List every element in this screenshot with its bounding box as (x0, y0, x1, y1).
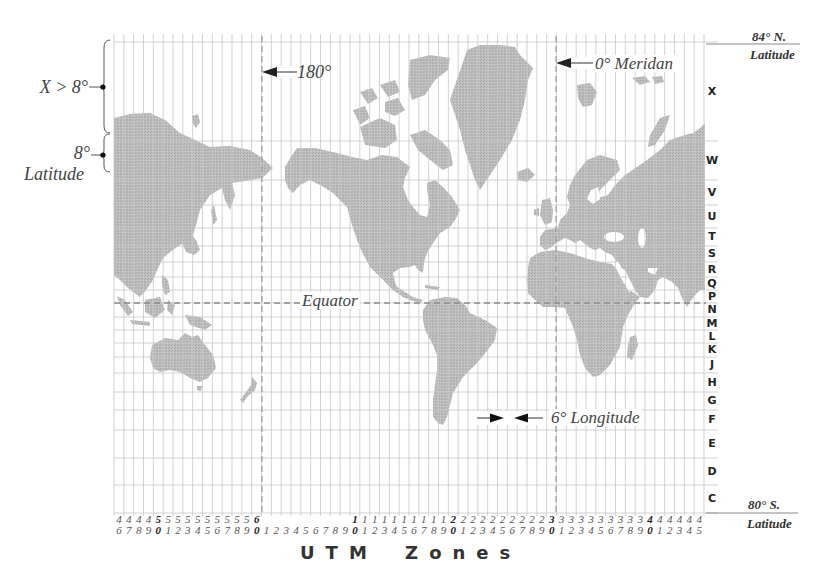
zone-label-units: 2 (271, 525, 281, 536)
zone-label-units: 5 (497, 525, 507, 536)
latitude-band-label: H (702, 377, 722, 388)
zone-label-units: 8 (232, 525, 242, 536)
latitude-band-label: L (702, 331, 722, 342)
landmass-victoria-island (360, 118, 397, 148)
zone-label-units: 4 (389, 525, 399, 536)
zone-label-units: 1 (556, 525, 566, 536)
landmass-franz-josef-land (652, 76, 664, 84)
latitude-band-label: V (702, 187, 722, 198)
zone-label-units: 3 (674, 525, 684, 536)
zone-label-units: 3 (576, 525, 586, 536)
north-limit-sublabel: Latitude (750, 48, 795, 61)
zone-label-units: 2 (566, 525, 576, 536)
landmass-novaya-zemlya (648, 115, 670, 147)
zone-label-units: 9 (143, 525, 153, 536)
landmass-baffin-island (410, 130, 453, 170)
landmass-caribbean (425, 285, 440, 290)
zone-label-units: 8 (625, 525, 635, 536)
antimeridian-arrow-icon (262, 66, 298, 78)
latitude-band-label: T (702, 231, 722, 242)
zone-label-units: 5 (399, 525, 409, 536)
zone-label-units: 2 (468, 525, 478, 536)
zone-label-units: 7 (320, 525, 330, 536)
zone-label-units: 1 (458, 525, 468, 536)
latitude-band-label: S (702, 248, 722, 259)
zone-label-units: 8 (429, 525, 439, 536)
zone-label-units: 8 (330, 525, 340, 536)
zone-label-units: 4 (586, 525, 596, 536)
latitude-band-label: Q (702, 278, 722, 289)
latitude-band-label: J (702, 359, 722, 370)
zone-label-units: 0 (547, 525, 557, 536)
landmass-new-zealand (240, 377, 257, 403)
band-8-dot (100, 152, 105, 157)
zone-label-units: 5 (596, 525, 606, 536)
landmass-sakhalin (211, 205, 217, 225)
latitude-band-label: M (702, 318, 722, 329)
zone-label-units: 8 (134, 525, 144, 536)
landmass-arctic-island (380, 80, 400, 97)
band-x-label: X > 8° (40, 78, 88, 96)
zone-label-units: 9 (537, 525, 547, 536)
zone-label-units: 4 (488, 525, 498, 536)
zone-label-units: 3 (379, 525, 389, 536)
zone-label-units: 5 (694, 525, 704, 536)
zone-label-units: 3 (183, 525, 193, 536)
zone-label-units: 6 (311, 525, 321, 536)
zone-label-units: 4 (193, 525, 203, 536)
latitude-band-label: P (702, 291, 722, 302)
zone-label-units: 1 (655, 525, 665, 536)
zone-label-units: 6 (409, 525, 419, 536)
zone-label-units: 7 (615, 525, 625, 536)
latitude-band-label: G (702, 395, 722, 406)
latitude-band-label: W (702, 155, 722, 166)
latitude-band-label: F (702, 414, 722, 425)
zone-label-units: 0 (350, 525, 360, 536)
prime-meridian-label: 0° Meridan (593, 55, 675, 72)
zone-label-units: 2 (665, 525, 675, 536)
band-x-dot (100, 84, 105, 89)
landmass-java (130, 320, 150, 326)
zone-label-units: 3 (478, 525, 488, 536)
latitude-band-label: X (702, 86, 722, 97)
landmass-banks-island (353, 106, 370, 125)
latitude-band-label: R (702, 264, 722, 275)
zone-label-units: 1 (163, 525, 173, 536)
zone-label-units: 6 (606, 525, 616, 536)
utm-grid (114, 34, 718, 516)
zone-label-units: 9 (242, 525, 252, 536)
band-8-label: 8° (74, 144, 90, 162)
landmass-sumatra (117, 296, 133, 316)
zone-label-units: 7 (419, 525, 429, 536)
latitude-band-label: C (702, 493, 722, 504)
zone-label-units: 9 (635, 525, 645, 536)
zone-label-units: 0 (252, 525, 262, 536)
zone-label-units: 6 (507, 525, 517, 536)
zone-label-units: 5 (301, 525, 311, 536)
latitude-band-label: E (702, 438, 722, 449)
latitude-band-label: N (702, 304, 722, 315)
landmass-franz-josef-land (632, 76, 650, 85)
south-limit-sublabel: Latitude (747, 517, 792, 530)
landmass-borneo (145, 297, 165, 318)
utm-world-map (0, 0, 824, 580)
landmass-spitsbergen (577, 83, 597, 107)
zone-label-units: 2 (370, 525, 380, 536)
zone-label-units: 3 (281, 525, 291, 536)
prime-meridian-arrow-icon (556, 57, 594, 69)
landmass-south-america (423, 297, 497, 425)
landmass-arctic-island (360, 88, 378, 104)
x-axis-title: UTM Zones (300, 542, 521, 563)
latitude-band-label: U (702, 211, 722, 222)
south-limit-label: 80° S. (748, 498, 780, 511)
zone-label-units: 0 (448, 525, 458, 536)
landmass-sulawesi (167, 300, 175, 315)
zone-label-units: 0 (153, 525, 163, 536)
zone-width-label: 6° Longitude (549, 409, 642, 426)
zone-label-units: 7 (517, 525, 527, 536)
zone-label-units: 4 (291, 525, 301, 536)
latitude-band-label: K (702, 344, 722, 355)
landmass-madagascar (627, 335, 638, 360)
zone-label-units: 1 (261, 525, 271, 536)
band-x-brace (89, 40, 110, 133)
